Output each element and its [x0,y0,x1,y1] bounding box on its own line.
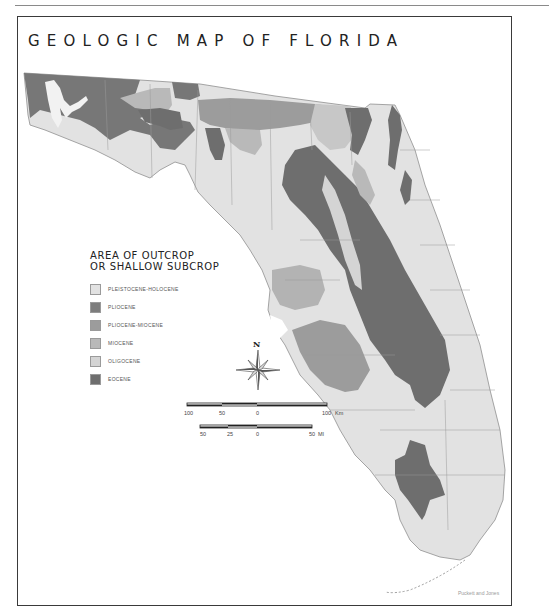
map-credit: Puckett and Jones [458,590,499,596]
legend-label: PLEISTOCENE-HOLOCENE [108,286,179,292]
legend-item-pliocene: PLIOCENE [90,298,219,316]
legend-item-eocene: EOCENE [90,370,219,388]
scale-mi-tick-50-right: 50 [309,431,315,437]
scale-km-tick-100-left: 100 [184,410,193,416]
legend-item-pleistocene-holocene: PLEISTOCENE-HOLOCENE [90,280,219,298]
scale-mi-tick-25: 25 [227,431,233,437]
swatch-oligocene [90,356,101,367]
legend-label: OLIGOCENE [108,358,140,364]
scale-km-tick-100-right: 100 [322,410,331,416]
swatch-eocene [90,374,101,385]
swatch-pliocene [90,302,101,313]
legend-title: AREA OF OUTCROP OR SHALLOW SUBCROP [90,250,219,272]
legend-heading-line2: OR SHALLOW SUBCROP [90,261,219,272]
scale-km-unit: Km [335,410,343,416]
legend-label: EOCENE [108,376,131,382]
scale-mi-tick-0: 0 [256,431,259,437]
swatch-pliocene-miocene [90,320,101,331]
legend-label: MIOCENE [108,340,133,346]
swatch-pleistocene-holocene [90,284,101,295]
legend-item-pliocene-miocene: PLIOCENE-MIOCENE [90,316,219,334]
zone-panhandle-dark-2 [172,82,200,100]
legend-label: PLIOCENE [108,304,136,310]
florida-map [0,0,549,615]
legend-item-oligocene: OLIGOCENE [90,352,219,370]
legend-label: PLIOCENE-MIOCENE [108,322,163,328]
scale-km-tick-0: 0 [256,410,259,416]
legend: AREA OF OUTCROP OR SHALLOW SUBCROP PLEIS… [90,250,219,388]
legend-heading-line1: AREA OF OUTCROP [90,250,219,261]
florida-keys [385,560,465,593]
zone-tampa-miocene [272,265,325,310]
legend-item-miocene: MIOCENE [90,334,219,352]
compass-rose-icon [233,348,283,392]
scale-km-tick-50: 50 [219,410,225,416]
swatch-miocene [90,338,101,349]
scale-mi-tick-50-left: 50 [200,431,206,437]
scale-mi-unit: MI [318,431,324,437]
scale-bar [185,400,330,435]
